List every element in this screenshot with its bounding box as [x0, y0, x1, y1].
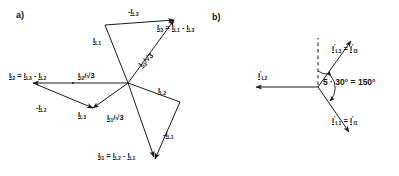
phasor-diagram-figure: a) b) -IL3 Il3 = IL1 - IL3 IL1 Il3/√3 Il… [0, 0, 399, 176]
label-neg-il3: -IL3 [128, 8, 138, 16]
label-il1: IL1 [93, 37, 101, 45]
midpoint-marker [72, 82, 74, 84]
vector-il2 [128, 83, 180, 102]
label-il1-difference: Il1 = IL2 - IL1 [98, 152, 135, 160]
vector-il1-over-sqrt3 [128, 83, 154, 157]
label-il2: IL2 [158, 87, 166, 95]
label-il2-difference: Il2 = IL3 - IL2 [9, 72, 46, 80]
panel-b-tag: b) [212, 12, 221, 22]
vector-il1 [105, 25, 128, 83]
label-il1-over-sqrt3: Il1/√3 [107, 114, 124, 122]
vector-il3 [93, 83, 128, 108]
label-il3-prime: I'L3 = I'l3 [332, 45, 358, 53]
label-il3-difference: Il3 = IL1 - IL3 [157, 24, 194, 32]
label-angle-150: 5 · 30° = 150° [323, 78, 376, 87]
label-il1-prime: I'L1 = I'l1 [332, 117, 358, 125]
label-neg-il2: -IL2 [36, 104, 46, 112]
label-il2-over-sqrt3: Il2/√3 [78, 72, 95, 80]
label-neg-il1: -IL1 [163, 131, 173, 139]
small-angle-arc [318, 71, 327, 74]
label-il2-prime: I'L2 [258, 72, 267, 80]
panel-a-tag: a) [16, 10, 24, 20]
label-il3: IL3 [78, 111, 86, 119]
vector-il1-prime [318, 87, 349, 132]
phasor-diagram-svg [0, 0, 399, 176]
